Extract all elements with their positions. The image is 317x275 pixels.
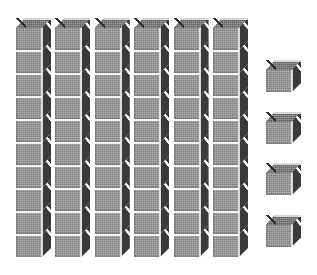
cube-front-face bbox=[174, 188, 200, 211]
unit-cube bbox=[213, 18, 248, 50]
cube-front-face bbox=[55, 50, 81, 73]
cube-front-texture bbox=[213, 73, 239, 96]
cube-front-texture bbox=[134, 234, 160, 257]
cube-front-face bbox=[213, 119, 239, 142]
cube-front-texture bbox=[16, 165, 42, 188]
cube-front-texture bbox=[16, 27, 42, 50]
cube-front-face bbox=[95, 165, 121, 188]
single-unit-cube bbox=[266, 112, 301, 144]
cube-front-face bbox=[95, 96, 121, 119]
cube-front-texture bbox=[174, 50, 200, 73]
cube-front-face bbox=[95, 234, 121, 257]
single-unit-cube bbox=[266, 60, 301, 92]
cube-front-face bbox=[213, 234, 239, 257]
cube-front-face bbox=[134, 73, 160, 96]
single-unit-cube bbox=[266, 163, 301, 195]
cube-front-texture bbox=[174, 142, 200, 165]
cube-top-highlight bbox=[182, 18, 209, 20]
cube-front-face bbox=[95, 50, 121, 73]
ten-rod bbox=[213, 18, 248, 257]
cube-front-face bbox=[55, 27, 81, 50]
cube-front-texture bbox=[95, 188, 121, 211]
cube-front-texture bbox=[55, 188, 81, 211]
cube-front-texture bbox=[55, 211, 81, 234]
cube-top-highlight bbox=[103, 18, 130, 20]
cube-front-face bbox=[95, 73, 121, 96]
cube-front-face bbox=[16, 142, 42, 165]
cube-front-face bbox=[16, 50, 42, 73]
cube-front-texture bbox=[95, 96, 121, 119]
ten-rod bbox=[95, 18, 130, 257]
cube-front-face bbox=[55, 142, 81, 165]
cube-top-left-edge bbox=[213, 18, 223, 28]
cube-front-texture bbox=[95, 119, 121, 142]
cube-front-texture bbox=[55, 119, 81, 142]
cube-front-face bbox=[16, 73, 42, 96]
unit-cube bbox=[266, 112, 301, 144]
cube-front-texture bbox=[213, 211, 239, 234]
unit-cube bbox=[95, 18, 130, 50]
cube-front-texture bbox=[213, 27, 239, 50]
cube-front-texture bbox=[55, 50, 81, 73]
cube-front-face bbox=[213, 211, 239, 234]
cube-front-face bbox=[174, 234, 200, 257]
cube-front-face bbox=[266, 172, 292, 195]
cube-front-face bbox=[174, 211, 200, 234]
cube-front-face bbox=[55, 165, 81, 188]
cube-front-texture bbox=[174, 73, 200, 96]
cube-front-texture bbox=[174, 119, 200, 142]
cube-front-texture bbox=[55, 73, 81, 96]
cube-front-texture bbox=[213, 165, 239, 188]
cube-front-face bbox=[174, 73, 200, 96]
base-ten-blocks-figure bbox=[0, 0, 317, 275]
cube-front-face bbox=[55, 96, 81, 119]
cube-front-texture bbox=[174, 165, 200, 188]
cube-front-texture bbox=[134, 165, 160, 188]
cube-front-texture bbox=[95, 165, 121, 188]
cube-front-texture bbox=[213, 50, 239, 73]
cube-front-face bbox=[213, 27, 239, 50]
cube-front-texture bbox=[55, 165, 81, 188]
single-unit-cube bbox=[266, 215, 301, 247]
cube-front-texture bbox=[174, 234, 200, 257]
cube-front-texture bbox=[134, 73, 160, 96]
cube-front-face bbox=[55, 119, 81, 142]
cube-front-texture bbox=[174, 27, 200, 50]
cube-front-texture bbox=[95, 50, 121, 73]
cube-top-left-edge bbox=[174, 18, 184, 28]
cube-top-left-edge bbox=[134, 18, 144, 28]
cube-front-texture bbox=[134, 119, 160, 142]
cube-top-left-edge bbox=[266, 163, 276, 173]
cube-front-face bbox=[174, 96, 200, 119]
cube-front-texture bbox=[134, 188, 160, 211]
cube-top-left-edge bbox=[16, 18, 26, 28]
cube-front-face bbox=[134, 188, 160, 211]
cube-front-texture bbox=[16, 96, 42, 119]
cube-front-texture bbox=[16, 211, 42, 234]
cube-front-texture bbox=[174, 96, 200, 119]
cube-front-face bbox=[16, 211, 42, 234]
cube-top-highlight bbox=[274, 60, 301, 62]
cube-front-face bbox=[266, 121, 292, 144]
ten-rod bbox=[174, 18, 209, 257]
cube-front-face bbox=[55, 234, 81, 257]
cube-front-face bbox=[16, 27, 42, 50]
unit-cube bbox=[134, 18, 169, 50]
cube-front-face bbox=[174, 142, 200, 165]
ten-rod bbox=[55, 18, 90, 257]
cube-front-texture bbox=[55, 27, 81, 50]
cube-top-left-edge bbox=[266, 60, 276, 70]
cube-front-face bbox=[55, 211, 81, 234]
cube-front-face bbox=[134, 211, 160, 234]
unit-cube bbox=[174, 18, 209, 50]
cube-front-texture bbox=[134, 142, 160, 165]
cube-front-face bbox=[55, 73, 81, 96]
cube-front-face bbox=[95, 119, 121, 142]
cube-front-texture bbox=[95, 142, 121, 165]
unit-cube bbox=[55, 18, 90, 50]
cube-front-face bbox=[16, 165, 42, 188]
cube-front-texture bbox=[16, 188, 42, 211]
cube-front-texture bbox=[174, 211, 200, 234]
ten-rod bbox=[16, 18, 51, 257]
cube-front-texture bbox=[213, 119, 239, 142]
